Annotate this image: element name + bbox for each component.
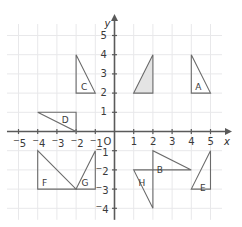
x-tick-label-1: 1 [131,137,137,147]
y-tick-label-1: 1 [101,107,107,117]
y-axis-arrow [111,14,118,21]
triangle-c-label: C [81,83,87,92]
y-tick-label-2: 2 [101,88,107,98]
triangle-f-label: F [42,179,47,188]
x-axis-name: x [224,137,230,147]
triangle-e-label: E [200,184,206,193]
x-tick-label--2: −2 [71,137,84,149]
x-tick-label--4: −4 [32,137,45,149]
x-axis-arrow [225,128,232,135]
y-tick-label--3: −3 [96,184,109,196]
x-tick-label-4: 4 [188,137,194,147]
triangle-b-label: B [157,166,163,175]
x-tick-label--3: −3 [51,137,64,149]
x-tick-label--5: −5 [13,137,26,149]
x-tick-label-2: 2 [150,137,156,147]
y-tick-label-3: 3 [101,69,107,79]
triangle-g-label: G [81,179,88,188]
y-tick-label--1: −1 [96,146,109,158]
y-tick-label--4: −4 [96,203,109,215]
y-tick-label-4: 4 [101,50,107,60]
triangle-a-label: A [195,83,201,92]
y-axis-name: y [105,19,111,29]
triangle-h-label: H [139,179,146,188]
y-tick-label-5: 5 [101,31,107,41]
origin-label: O [104,137,112,147]
x-tick-label-5: 5 [208,137,214,147]
x-tick-label-3: 3 [169,137,175,147]
coordinate-plane-figure: −5−4−3−2−11234554321−1−2−3−4OxyCADFGBHE [0,0,242,227]
triangle-d-label: D [62,116,69,125]
y-tick-label--2: −2 [96,165,109,177]
